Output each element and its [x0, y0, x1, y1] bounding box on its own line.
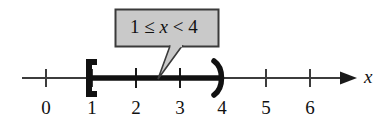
tick-label-4: 4	[210, 97, 234, 119]
tick-label-6: 6	[298, 97, 322, 119]
callout-left-value: 1	[130, 16, 140, 37]
tick-label-0: 0	[34, 97, 58, 119]
callout-inequality-text: 1 ≤ x < 4	[130, 16, 198, 38]
tick-label-2: 2	[124, 97, 148, 119]
tick-label-5: 5	[254, 97, 278, 119]
axis-arrow-head	[340, 72, 357, 85]
callout-pointer-tail	[158, 46, 182, 79]
tick-label-3: 3	[168, 97, 192, 119]
callout-variable: x	[160, 16, 169, 37]
number-line-figure: 1 ≤ x < 4 0 1 2 3 4 5 6 x	[0, 0, 392, 128]
callout-right-value: 4	[188, 16, 198, 37]
axis-label-x: x	[364, 66, 372, 88]
callout-right-operator: <	[173, 16, 184, 37]
callout-left-operator: ≤	[144, 16, 155, 37]
tick-label-1: 1	[80, 97, 104, 119]
